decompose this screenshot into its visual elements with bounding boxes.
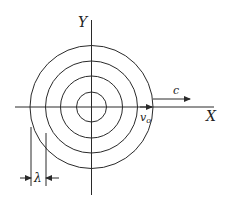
wavefront-diagram: vo c X Y λ — [0, 0, 228, 209]
wave-speed-label: c — [173, 84, 179, 97]
y-axis-label: Y — [78, 14, 89, 30]
source-velocity-label: vo — [140, 111, 151, 125]
x-axis-label: X — [205, 108, 217, 124]
wavelength-label: λ — [33, 171, 42, 185]
